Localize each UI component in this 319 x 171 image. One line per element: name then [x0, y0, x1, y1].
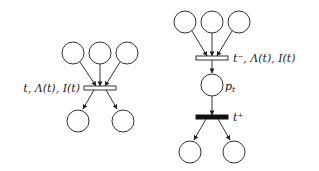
right-transition-plus-label: t⁺	[233, 111, 243, 124]
right-output-arc-2	[218, 119, 230, 140]
right-input-place-2	[201, 11, 223, 33]
left-output-arc-2	[106, 90, 117, 109]
right-input-arc-1	[192, 31, 207, 56]
petri-net-diagram: t, Λ(t), I(t) t⁻, Λ(t), I(t) pt t⁺	[0, 0, 319, 171]
right-input-place-1	[174, 11, 196, 33]
left-input-place-3	[116, 42, 138, 64]
right-output-place-1	[179, 141, 201, 163]
right-output-arc-1	[194, 119, 206, 140]
right-transition-plus-bar	[196, 115, 228, 119]
right-input-place-3	[228, 11, 250, 33]
left-input-arc-1	[80, 62, 96, 86]
left-output-place-1	[67, 110, 89, 132]
right-petri-net: t⁻, Λ(t), I(t) pt t⁺	[174, 11, 296, 163]
right-input-arc-3	[217, 31, 232, 56]
left-output-arc-1	[83, 90, 94, 109]
right-place-pt	[201, 74, 223, 96]
left-output-place-2	[112, 110, 134, 132]
right-output-place-2	[223, 141, 245, 163]
left-input-place-2	[89, 42, 111, 64]
right-transition-minus-label: t⁻, Λ(t), I(t)	[233, 52, 296, 65]
left-transition-label: t, Λ(t), I(t)	[23, 82, 80, 95]
right-transition-minus-bar	[196, 56, 228, 60]
left-petri-net: t, Λ(t), I(t)	[23, 42, 138, 132]
left-input-place-1	[62, 42, 84, 64]
right-place-pt-label: pt	[225, 80, 236, 94]
left-transition-bar	[84, 86, 116, 90]
left-input-arc-3	[105, 62, 120, 86]
